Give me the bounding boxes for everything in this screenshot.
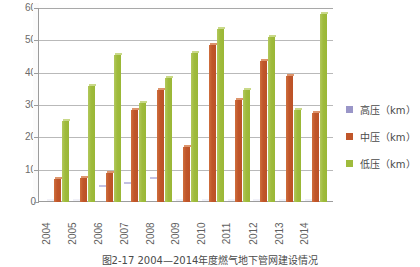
bar-2005-series-2[interactable] bbox=[88, 86, 95, 202]
bar-2006-series-2[interactable] bbox=[114, 55, 121, 202]
bar-top-face bbox=[244, 88, 251, 90]
x-axis-labels: 2004200520062007200820092010201120122013… bbox=[38, 204, 333, 250]
bar-top-face bbox=[73, 199, 80, 201]
bar-top-face bbox=[253, 199, 260, 201]
bar-2013-series-2[interactable] bbox=[294, 110, 301, 202]
legend-item-diya[interactable]: 低压（km） bbox=[346, 158, 420, 169]
bar-face bbox=[320, 14, 327, 202]
bar-top-face bbox=[150, 177, 157, 179]
bar-2010-series-1[interactable] bbox=[209, 45, 216, 202]
bar-2011-series-2[interactable] bbox=[243, 90, 250, 202]
bar-group-2009 bbox=[175, 8, 198, 202]
bar-2008-series-1[interactable] bbox=[157, 90, 164, 202]
y-tick-label: 60 bbox=[6, 3, 36, 13]
bar-2004-series-0[interactable] bbox=[46, 201, 53, 202]
x-tick-label: 2014 bbox=[299, 222, 332, 244]
bar-top-face bbox=[132, 108, 139, 110]
bar-top-face bbox=[218, 27, 225, 29]
legend-item-zhongya[interactable]: 中压（km） bbox=[346, 131, 420, 142]
bar-2007-series-2[interactable] bbox=[139, 103, 146, 202]
bar-top-face bbox=[99, 185, 106, 187]
x-tick-wrap: 2007 bbox=[123, 204, 146, 250]
bar-face bbox=[165, 78, 172, 202]
bar-top-face bbox=[107, 171, 114, 173]
bar-face bbox=[183, 147, 190, 202]
bar-2014-series-1[interactable] bbox=[312, 113, 319, 202]
bar-2004-series-1[interactable] bbox=[54, 179, 61, 202]
bar-2014-series-0[interactable] bbox=[304, 201, 311, 202]
bar-face bbox=[88, 86, 95, 202]
bar-face bbox=[278, 201, 285, 202]
y-tick-label: 20 bbox=[6, 132, 36, 142]
bar-2010-series-0[interactable] bbox=[201, 201, 208, 202]
bar-group-2012 bbox=[252, 8, 275, 202]
bar-2008-series-0[interactable] bbox=[149, 179, 156, 202]
bar-2006-series-0[interactable] bbox=[98, 187, 105, 202]
x-tick-wrap: 2004 bbox=[46, 204, 69, 250]
bar-2012-series-1[interactable] bbox=[260, 61, 267, 202]
bar-top-face bbox=[176, 199, 183, 201]
bar-top-face bbox=[55, 177, 62, 179]
bar-group-2005 bbox=[72, 8, 95, 202]
bar-2009-series-1[interactable] bbox=[183, 147, 190, 202]
bar-face bbox=[304, 201, 311, 202]
bar-face bbox=[243, 90, 250, 202]
bar-2005-series-0[interactable] bbox=[72, 201, 79, 202]
bar-2013-series-1[interactable] bbox=[286, 76, 293, 202]
plot-area bbox=[38, 8, 333, 202]
bar-face bbox=[175, 201, 182, 202]
bar-top-face bbox=[321, 12, 328, 14]
bar-2004-series-2[interactable] bbox=[62, 121, 69, 202]
bar-top-face bbox=[47, 199, 54, 201]
bar-top-face bbox=[192, 51, 199, 53]
bar-face bbox=[62, 121, 69, 202]
bar-2005-series-1[interactable] bbox=[80, 178, 87, 202]
bar-face bbox=[54, 179, 61, 202]
bar-2009-series-0[interactable] bbox=[175, 201, 182, 202]
bar-top-face bbox=[166, 76, 173, 78]
bar-face bbox=[149, 179, 156, 202]
bar-top-face bbox=[287, 74, 294, 76]
bar-top-face bbox=[236, 98, 243, 100]
legend-label: 中压（km） bbox=[360, 129, 416, 144]
legend-item-gaoya[interactable]: 高压（km） bbox=[346, 104, 420, 115]
bar-face bbox=[312, 113, 319, 202]
bar-2007-series-1[interactable] bbox=[131, 110, 138, 202]
bar-top-face bbox=[202, 199, 209, 201]
chart-legend: 高压（km） 中压（km） 低压（km） bbox=[346, 104, 420, 185]
bar-2012-series-2[interactable] bbox=[268, 37, 275, 202]
x-tick-wrap: 2011 bbox=[227, 204, 250, 250]
bar-top-face bbox=[313, 111, 320, 113]
bar-face bbox=[131, 110, 138, 202]
bar-face bbox=[217, 29, 224, 202]
bar-top-face bbox=[124, 182, 131, 184]
bar-2011-series-0[interactable] bbox=[227, 201, 234, 202]
legend-label: 低压（km） bbox=[360, 156, 416, 171]
legend-swatch-icon bbox=[346, 160, 353, 167]
bar-2007-series-0[interactable] bbox=[123, 184, 130, 202]
bar-top-face bbox=[158, 88, 165, 90]
bar-2010-series-2[interactable] bbox=[217, 29, 224, 202]
x-tick-wrap: 2009 bbox=[175, 204, 198, 250]
bar-2011-series-1[interactable] bbox=[235, 100, 242, 202]
bar-top-face bbox=[295, 108, 302, 110]
bar-face bbox=[106, 173, 113, 202]
bar-2012-series-0[interactable] bbox=[252, 201, 259, 202]
bar-group-2010 bbox=[201, 8, 224, 202]
bar-top-face bbox=[210, 43, 217, 45]
bar-2013-series-0[interactable] bbox=[278, 201, 285, 202]
legend-swatch-icon bbox=[346, 133, 353, 140]
bar-2006-series-1[interactable] bbox=[106, 173, 113, 202]
y-tick-label: 40 bbox=[6, 68, 36, 78]
bar-2008-series-2[interactable] bbox=[165, 78, 172, 202]
bar-2014-series-2[interactable] bbox=[320, 14, 327, 202]
bar-face bbox=[260, 61, 267, 202]
bar-face bbox=[235, 100, 242, 202]
bar-groups bbox=[38, 8, 333, 202]
x-tick-wrap: 2012 bbox=[252, 204, 275, 250]
bar-face bbox=[139, 103, 146, 202]
bar-face bbox=[157, 90, 164, 202]
bar-top-face bbox=[115, 53, 122, 55]
bar-2009-series-2[interactable] bbox=[191, 53, 198, 202]
